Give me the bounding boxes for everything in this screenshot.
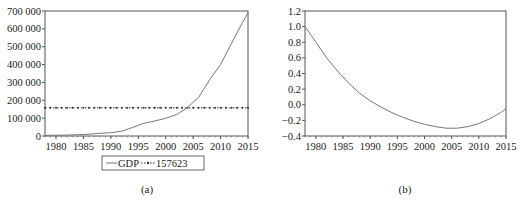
figure: 0100 000200 000300 000400 000500 000600 … xyxy=(0,0,526,204)
x-tick-label: 2000 xyxy=(414,141,435,152)
y-tick-label: 600 000 xyxy=(7,23,41,34)
series-line-b xyxy=(305,27,506,129)
plot-frame-b xyxy=(305,11,506,136)
chart-b: −0.4−0.20.00.20.40.60.81.01.2 1980198519… xyxy=(282,6,517,197)
y-axis-a: 0100 000200 000300 000400 000500 000600 … xyxy=(7,6,45,142)
y-tick-label: 300 000 xyxy=(7,77,41,88)
y-tick-label: 0.0 xyxy=(288,99,301,110)
plot-frame-a xyxy=(45,11,248,136)
x-tick-label: 1985 xyxy=(73,141,94,152)
legend-a: GDP 157623 xyxy=(102,156,204,170)
gdp-line xyxy=(45,13,248,136)
x-tick-label: 2010 xyxy=(210,141,231,152)
legend-ref-marker xyxy=(147,162,149,164)
x-axis-a: 19801985199019952000200520102015 xyxy=(45,136,258,152)
x-tick-label: 1995 xyxy=(387,141,408,152)
caption-b: (b) xyxy=(399,183,412,196)
x-tick-label: 2005 xyxy=(183,141,204,152)
x-axis-b: 19801985199019952000200520102015 xyxy=(305,136,516,152)
y-tick-label: 0 xyxy=(36,131,41,142)
y-tick-label: 400 000 xyxy=(7,59,41,70)
x-tick-label: 1990 xyxy=(100,141,121,152)
legend-ref-label: 157623 xyxy=(156,158,188,169)
y-tick-label: 0.4 xyxy=(288,68,302,79)
y-tick-label: 0.2 xyxy=(288,84,301,95)
y-tick-label: 200 000 xyxy=(7,95,41,106)
caption-a: (a) xyxy=(141,183,154,196)
y-tick-label: −0.2 xyxy=(282,115,301,126)
x-tick-label: 2010 xyxy=(468,141,489,152)
y-tick-label: 1.0 xyxy=(288,21,301,32)
x-tick-label: 2015 xyxy=(496,141,517,152)
legend-gdp-label: GDP xyxy=(118,158,139,169)
y-tick-label: −0.4 xyxy=(282,131,302,142)
x-tick-label: 1990 xyxy=(360,141,381,152)
y-axis-b: −0.4−0.20.00.20.40.60.81.01.2 xyxy=(282,6,305,142)
y-tick-label: 1.2 xyxy=(288,6,301,17)
x-tick-label: 1980 xyxy=(45,141,66,152)
y-tick-label: 0.8 xyxy=(288,37,301,48)
x-tick-label: 2005 xyxy=(441,141,462,152)
x-tick-label: 1980 xyxy=(305,141,326,152)
y-tick-label: 100 000 xyxy=(7,113,41,124)
x-tick-label: 1995 xyxy=(128,141,149,152)
y-tick-label: 0.6 xyxy=(288,52,301,63)
x-tick-label: 1985 xyxy=(333,141,354,152)
y-tick-label: 500 000 xyxy=(7,41,41,52)
x-tick-label: 2015 xyxy=(238,141,259,152)
chart-a-gdp: 0100 000200 000300 000400 000500 000600 … xyxy=(7,6,259,197)
y-tick-label: 700 000 xyxy=(7,6,41,17)
x-tick-label: 2000 xyxy=(155,141,176,152)
